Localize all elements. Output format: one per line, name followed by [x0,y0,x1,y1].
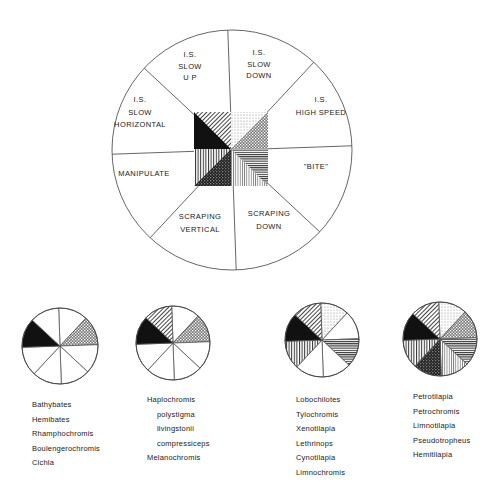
sector-label-slow_down: DOWN [246,71,271,80]
taxon-name: compressiceps [147,437,210,452]
taxon-name: livingstonii [147,422,210,437]
taxon-name: Hemitilapia [413,448,470,463]
sector-label-high_speed: HIGH SPEED [296,108,346,117]
taxon-name: Petrotilapia [413,390,470,405]
sector-label-slow_horizontal: I.S. [134,95,147,104]
species-group-wheels [22,302,477,384]
taxon-name: Limnotilapia [413,419,470,434]
sector-label-slow_horizontal: HORIZONTAL [114,120,166,129]
taxon-name: polystigma [147,408,210,423]
group-wheel-1 [22,308,98,384]
species-list-group-3: LobochilotesTylochromisXenotilapiaLethri… [296,393,345,480]
sector-label-bite: "BITE" [304,162,328,171]
sector-label-scraping_down: SCRAPING [248,209,290,218]
group-wheel-2 [136,306,210,380]
sector-label-scraping_vertical: SCRAPING [179,212,221,221]
taxon-name: Cichla [32,456,100,471]
sector-label-slow_up: SLOW [178,62,202,71]
taxon-name: Hemibates [32,413,100,428]
taxon-name: Lobochilotes [296,393,345,408]
sector-label-slow_down: I.S. [253,48,266,57]
group-wheel-3 [285,303,359,377]
sector-label-scraping_vertical: VERTICAL [180,225,220,234]
taxon-name: Lethrinops [296,437,345,452]
species-list-group-1: BathybatesHemibatesRhamphochromisBouleng… [32,398,100,471]
sector-label-manipulate: MANIPULATE [118,169,169,178]
group-wheel-4 [403,302,477,376]
sector-label-slow_up: U P [183,73,197,82]
sector-label-scraping_down: DOWN [256,222,281,231]
species-list-group-2: Haplochromispolystigmalivingstoniicompre… [147,393,210,466]
taxon-name: Tylochromis [296,408,345,423]
sector-label-slow_up: I.S. [184,50,197,59]
key-wheel: I.S.SLOWDOWNI.S.HIGH SPEED"BITE"SCRAPING… [112,30,352,270]
sector-label-slow_horizontal: SLOW [128,108,152,117]
taxon-name: Melanochromis [147,451,210,466]
taxon-name: Limnochromis [296,466,345,481]
key-wheel-dividers [112,30,352,270]
taxon-name: Petrochromis [413,405,470,420]
taxon-name: Pseudotropheus [413,434,470,449]
species-list-group-4: PetrotilapiaPetrochromisLimnotilapiaPseu… [413,390,470,463]
taxon-name: Xenotilapia [296,422,345,437]
taxon-name: Boulengerochromis [32,442,100,457]
sector-label-slow_down: SLOW [247,60,271,69]
taxon-name: Bathybates [32,398,100,413]
sector-label-high_speed: I.S. [315,95,328,104]
taxon-name: Haplochromis [147,393,210,408]
taxon-name: Rhamphochromis [32,427,100,442]
taxon-name: Cynotilapia [296,451,345,466]
